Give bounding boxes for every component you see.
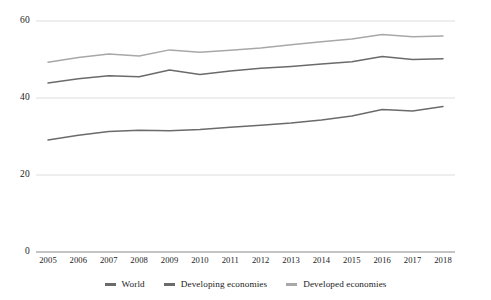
legend-color-swatch — [105, 283, 116, 286]
x-axis-tick-label: 2010 — [183, 255, 217, 265]
legend-item[interactable]: Developed economies — [286, 279, 386, 289]
legend-item[interactable]: World — [105, 279, 145, 289]
legend-label: World — [122, 279, 145, 289]
x-axis-tick-label: 2015 — [335, 255, 369, 265]
x-axis-tick-label: 2018 — [426, 255, 460, 265]
y-axis-tick-label: 40 — [2, 92, 30, 102]
x-axis-tick-label: 2007 — [92, 255, 126, 265]
chart-legend: WorldDeveloping economiesDeveloped econo… — [0, 279, 491, 289]
line-chart: 0204060 20052006200720082009201020112012… — [0, 0, 491, 300]
x-axis-tick-label: 2008 — [122, 255, 156, 265]
y-axis-tick-label: 60 — [2, 15, 30, 25]
legend-color-swatch — [164, 283, 175, 286]
legend-label: Developing economies — [181, 279, 267, 289]
x-axis-tick-label: 2014 — [304, 255, 338, 265]
series-line — [48, 34, 443, 62]
series-line — [48, 56, 443, 83]
series-lines — [48, 34, 443, 139]
y-axis-tick-label: 0 — [2, 246, 30, 256]
legend-color-swatch — [286, 283, 297, 286]
legend-label: Developed economies — [303, 279, 386, 289]
y-axis-tick-label: 20 — [2, 169, 30, 179]
x-axis-tick-label: 2016 — [365, 255, 399, 265]
x-axis-tick-label: 2017 — [396, 255, 430, 265]
x-axis-tick-label: 2009 — [153, 255, 187, 265]
legend-item[interactable]: Developing economies — [164, 279, 267, 289]
x-axis-tick-label: 2005 — [31, 255, 65, 265]
x-axis-tick-label: 2011 — [213, 255, 247, 265]
x-axis-tick-label: 2012 — [244, 255, 278, 265]
x-axis-tick-label: 2006 — [61, 255, 95, 265]
x-axis-tick-label: 2013 — [274, 255, 308, 265]
series-line — [48, 106, 443, 139]
